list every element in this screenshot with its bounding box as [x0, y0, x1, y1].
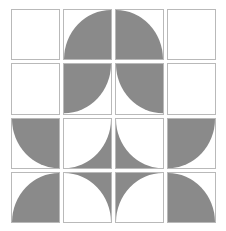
shape-fill: [168, 119, 215, 168]
tile-r2c4: [167, 63, 216, 114]
tile-r4c2: [63, 172, 112, 223]
shape-fill: [116, 10, 163, 59]
tile-r1c2: [63, 9, 112, 60]
quarter-circle-top-right-icon: [12, 119, 59, 168]
quarter-circle-top-left-icon: [168, 119, 215, 168]
tile-r3c1: [11, 118, 60, 169]
shape-fill: [12, 173, 59, 222]
shape-fill: [64, 119, 111, 168]
tile-r1c1: [11, 9, 60, 60]
tile-r4c3: [115, 172, 164, 223]
pattern-grid: [11, 9, 216, 223]
shape-fill: [64, 10, 111, 59]
quarter-circle-bottom-right-icon: [64, 10, 111, 59]
shape-fill: [116, 119, 163, 168]
shape-fill: [168, 173, 215, 222]
tile-r2c2: [63, 63, 112, 114]
tile-r1c4: [167, 9, 216, 60]
pattern-figure: [0, 0, 226, 231]
quarter-circle-bottom-right-icon: [12, 173, 59, 222]
tile-r2c3: [115, 63, 164, 114]
shape-fill: [116, 64, 163, 113]
inverted-quarter-circle-top-right-icon: [64, 173, 111, 222]
tile-r3c4: [167, 118, 216, 169]
quarter-circle-top-right-icon: [116, 64, 163, 113]
tile-r3c2: [63, 118, 112, 169]
shape-fill: [116, 173, 163, 222]
inverted-quarter-circle-bottom-left-icon: [116, 119, 163, 168]
shape-fill: [12, 119, 59, 168]
inverted-quarter-circle-top-left-icon: [116, 173, 163, 222]
tile-r4c4: [167, 172, 216, 223]
shape-fill: [64, 64, 111, 113]
tile-r4c1: [11, 172, 60, 223]
quarter-circle-bottom-left-icon: [168, 173, 215, 222]
shape-fill: [64, 173, 111, 222]
inverted-quarter-circle-bottom-right-icon: [64, 119, 111, 168]
tile-r1c3: [115, 9, 164, 60]
quarter-circle-top-left-icon: [64, 64, 111, 113]
tile-r2c1: [11, 63, 60, 114]
quarter-circle-bottom-left-icon: [116, 10, 163, 59]
tile-r3c3: [115, 118, 164, 169]
